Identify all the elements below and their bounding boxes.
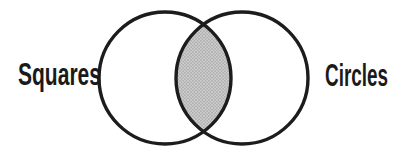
squares-label: Squares [18,57,101,92]
venn-diagram: Squares Circles [0,0,397,155]
venn-figure: Squares Circles [0,0,397,155]
circles-label: Circles [325,58,388,93]
